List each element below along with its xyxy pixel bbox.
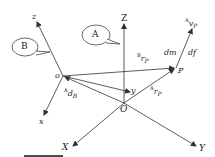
- point-p-label: P: [178, 67, 183, 75]
- body-y-label: y: [131, 87, 136, 95]
- vector-a-v-p-label: AvP: [185, 18, 197, 29]
- body-x-label: x: [39, 118, 44, 126]
- callout-a-bubble: [82, 25, 120, 45]
- global-y-label: Y: [199, 144, 205, 153]
- rigid-body-frames-diagram: B A z x y o Z X Y O P AdB BrP ArP AvP dm…: [0, 0, 215, 157]
- diagram-lines: [0, 0, 215, 157]
- vector-a-r-p-label: ArP: [150, 86, 162, 97]
- callout-a-label: A: [92, 30, 99, 39]
- body-x-axis: [44, 76, 63, 115]
- callout-b-label: B: [21, 42, 28, 51]
- global-y-axis: [124, 103, 196, 146]
- vector-a-d-b-label: AdB: [64, 88, 77, 99]
- body-origin-label: o: [55, 72, 60, 80]
- vector-b-r-p: [63, 68, 174, 76]
- callout-b-bubble: [12, 38, 50, 56]
- force-element-label: df: [188, 49, 196, 57]
- global-origin-label: O: [120, 105, 127, 114]
- vector-b-r-p-label: BrP: [137, 53, 149, 64]
- mass-element-label: dm: [164, 49, 177, 57]
- body-z-axis: [37, 22, 63, 76]
- global-x-label: X: [62, 143, 68, 152]
- global-z-label: Z: [121, 14, 127, 23]
- global-x-axis: [73, 103, 124, 146]
- body-z-label: z: [32, 13, 36, 21]
